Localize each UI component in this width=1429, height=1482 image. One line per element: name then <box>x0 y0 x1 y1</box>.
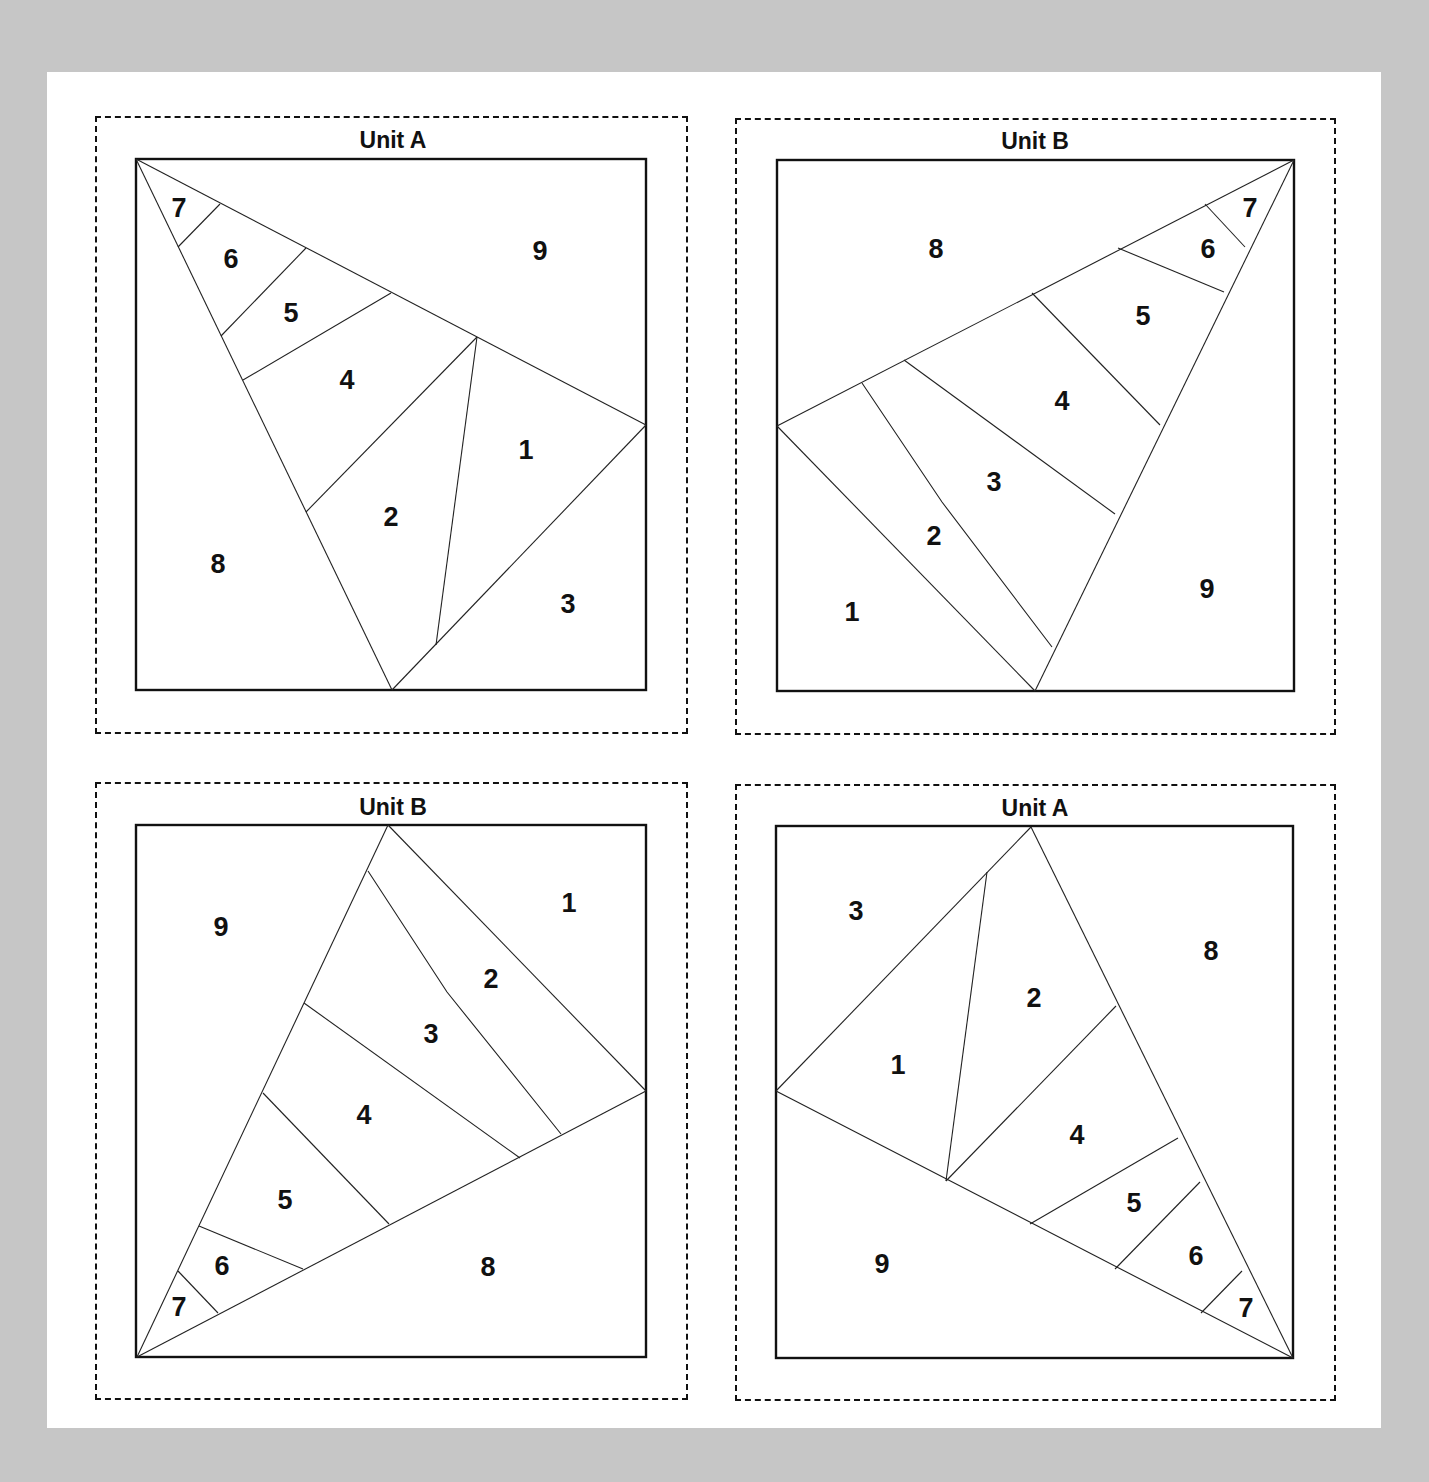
piece-label: 8 <box>480 1252 495 1282</box>
piece-label: 5 <box>1126 1188 1141 1218</box>
piece-label: 8 <box>928 234 943 264</box>
piece-label: 9 <box>874 1249 889 1279</box>
piece-label: 5 <box>283 298 298 328</box>
piece-label: 4 <box>356 1100 371 1130</box>
foundation-piecing-diagram: 7 6 5 4 2 1 3 9 8 7 6 5 4 3 2 1 9 8 <box>0 0 1429 1482</box>
piece-label: 6 <box>223 244 238 274</box>
piece-label: 1 <box>518 435 533 465</box>
piece-label: 8 <box>210 549 225 579</box>
piece-label: 3 <box>986 467 1001 497</box>
unit-b-top-right: 7 6 5 4 3 2 1 9 8 <box>777 160 1294 691</box>
piece-label: 1 <box>890 1050 905 1080</box>
piece-label: 7 <box>171 1292 186 1322</box>
piece-label: 3 <box>848 896 863 926</box>
piece-label: 4 <box>339 365 354 395</box>
piece-label: 2 <box>383 502 398 532</box>
piece-label: 2 <box>1026 983 1041 1013</box>
piece-label: 2 <box>483 964 498 994</box>
piece-label: 4 <box>1069 1120 1084 1150</box>
unit-a-top-left: 7 6 5 4 2 1 3 9 8 <box>136 159 646 690</box>
piece-label: 6 <box>1188 1241 1203 1271</box>
piece-label: 9 <box>532 236 547 266</box>
piece-label: 5 <box>1135 301 1150 331</box>
piece-label: 3 <box>560 589 575 619</box>
piece-label: 7 <box>171 193 186 223</box>
unit-b-bottom-left: 1 2 3 4 5 6 7 8 9 <box>136 825 646 1357</box>
piece-label: 4 <box>1054 386 1069 416</box>
piece-label: 6 <box>1200 234 1215 264</box>
piece-label: 7 <box>1238 1293 1253 1323</box>
piece-label: 1 <box>844 597 859 627</box>
piece-label: 8 <box>1203 936 1218 966</box>
piece-label: 3 <box>423 1019 438 1049</box>
piece-label: 9 <box>1199 574 1214 604</box>
piece-label: 1 <box>561 888 576 918</box>
piece-label: 5 <box>277 1185 292 1215</box>
piece-label: 9 <box>213 912 228 942</box>
piece-label: 6 <box>214 1251 229 1281</box>
unit-a-bottom-right: 3 1 2 8 4 5 6 7 9 <box>776 826 1293 1358</box>
piece-label: 7 <box>1242 193 1257 223</box>
piece-label: 2 <box>926 521 941 551</box>
